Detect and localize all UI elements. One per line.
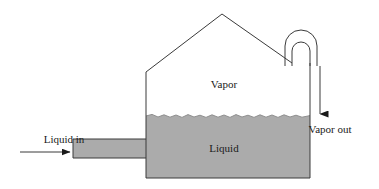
liquid-inlet-pipe xyxy=(73,139,150,158)
roof-right-slope xyxy=(222,14,292,63)
flash-vessel-illustration: Vapor Liquid Liquid in Vapor out xyxy=(0,0,379,189)
flash-vessel-diagram: Vapor Liquid Liquid in Vapor out xyxy=(0,0,379,189)
outlet-pipe-outer-wall xyxy=(285,30,317,66)
liquid-in-label: Liquid in xyxy=(44,133,85,145)
vapor-outlet-pipe xyxy=(285,30,317,66)
vapor-out-label: Vapor out xyxy=(308,123,351,135)
outlet-pipe-inner-wall xyxy=(292,42,310,66)
roof-left-slope xyxy=(146,14,222,72)
liquid-region-label: Liquid xyxy=(209,142,239,154)
vapor-region-label: Vapor xyxy=(211,78,238,90)
